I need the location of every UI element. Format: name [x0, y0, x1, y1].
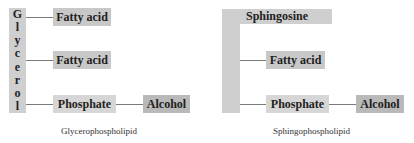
diagram-caption: Sphingophospholipid — [273, 126, 350, 136]
connector-line — [116, 104, 143, 105]
fatty-acid-box: Fatty acid — [53, 8, 111, 26]
connector-line — [240, 60, 266, 61]
connector-line — [329, 104, 356, 105]
fatty-acid-box: Fatty acid — [266, 51, 325, 69]
connector-line — [26, 104, 53, 105]
connector-line — [240, 104, 266, 105]
connector-line — [26, 17, 53, 18]
connector-line — [26, 60, 53, 61]
phosphate-box: Phosphate — [266, 95, 329, 113]
glycerol-label: G l y c e r o l — [9, 9, 26, 112]
alcohol-box: Alcohol — [143, 95, 190, 113]
phosphate-box: Phosphate — [53, 95, 116, 113]
diagram-caption: Glycerophospholipid — [61, 126, 137, 136]
sphingosine-box: Sphingosine — [222, 9, 332, 24]
alcohol-box: Alcohol — [356, 95, 404, 113]
sphingosine-backbone — [222, 9, 240, 113]
fatty-acid-box: Fatty acid — [53, 51, 111, 69]
